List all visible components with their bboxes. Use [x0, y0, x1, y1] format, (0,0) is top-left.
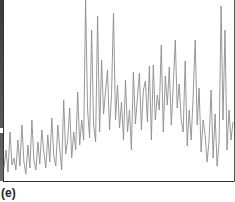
- panel-label: (e): [1, 186, 16, 200]
- signal-line: [4, 0, 233, 174]
- line-chart: [0, 0, 235, 184]
